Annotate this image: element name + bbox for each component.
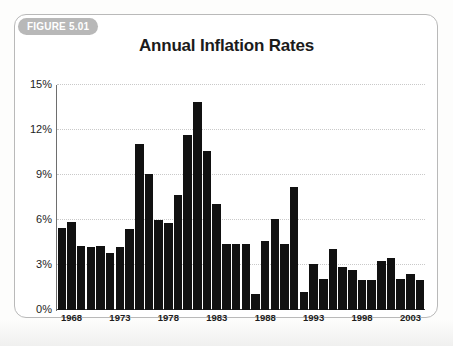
bar (232, 244, 241, 310)
x-tick-label: 1993 (303, 312, 324, 323)
y-tick-label: 6% (6, 213, 52, 225)
bar (338, 267, 347, 311)
bar (203, 151, 212, 310)
bar (251, 294, 260, 311)
bar (87, 247, 96, 310)
bar (396, 279, 405, 311)
bar (242, 244, 251, 310)
bar (358, 280, 367, 310)
bar (222, 244, 231, 310)
bar (387, 258, 396, 311)
gridline-15 (57, 84, 425, 85)
gridline-9 (57, 174, 425, 175)
bar (348, 270, 357, 311)
bar (416, 280, 425, 310)
bar (319, 279, 328, 311)
x-tick-label: 2003 (400, 312, 421, 323)
x-tick-label: 1978 (158, 312, 179, 323)
x-tick-label: 1998 (351, 312, 372, 323)
bar (329, 249, 338, 311)
y-tick-label: 0% (6, 303, 52, 315)
x-tick-label: 1973 (109, 312, 130, 323)
x-axis-tick-labels: 19681973197819831988199319982003 (57, 311, 437, 327)
bar (174, 195, 183, 311)
bar (367, 280, 376, 310)
x-tick-label: 1968 (61, 312, 82, 323)
y-tick-label: 9% (6, 168, 52, 180)
bar (377, 261, 386, 311)
chart-title: Annual Inflation Rates (0, 36, 453, 56)
y-tick-label: 12% (6, 123, 52, 135)
scanned-page: FIGURE 5.01 Annual Inflation Rates 0%3%6… (0, 0, 453, 346)
y-tick-label: 15% (6, 78, 52, 90)
bar (300, 292, 309, 310)
bar (58, 228, 67, 311)
bar (135, 144, 144, 311)
figure-number-badge: FIGURE 5.01 (18, 18, 98, 35)
bar (77, 246, 86, 311)
bar (164, 223, 173, 310)
gridline-6 (57, 219, 425, 220)
bar (183, 135, 192, 311)
plot-area (57, 85, 425, 310)
bar (212, 204, 221, 311)
bar (406, 274, 415, 310)
x-tick-label: 1988 (255, 312, 276, 323)
bar (96, 246, 105, 311)
bar (145, 174, 154, 311)
bar (290, 187, 299, 310)
bar (261, 241, 270, 310)
bar (125, 229, 134, 310)
bar (309, 264, 318, 311)
gridline-12 (57, 129, 425, 130)
bar (280, 244, 289, 310)
bar (193, 102, 202, 311)
bar (106, 253, 115, 310)
x-tick-label: 1983 (206, 312, 227, 323)
bar (271, 219, 280, 311)
y-axis-tick-labels: 0%3%6%9%12%15% (4, 85, 52, 310)
y-tick-label: 3% (6, 258, 52, 270)
bar (67, 222, 76, 311)
bar (154, 220, 163, 310)
bar (116, 247, 125, 310)
